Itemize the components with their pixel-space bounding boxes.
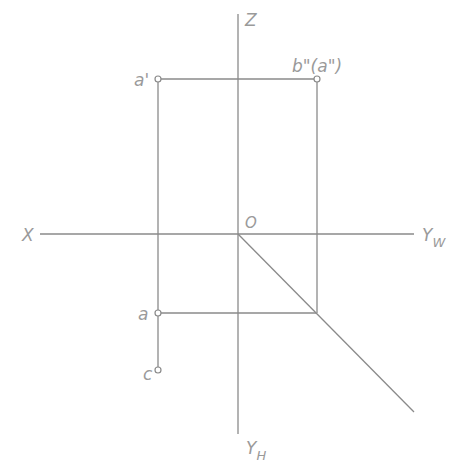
a-label: a	[138, 304, 148, 324]
point-a	[155, 310, 161, 316]
x-axis-label: X	[21, 225, 34, 245]
yw-axis-label: YW	[422, 225, 446, 250]
c-label: c	[143, 364, 153, 384]
origin-label: O	[245, 214, 257, 232]
point-c	[155, 367, 161, 373]
a-prime-label: a'	[134, 70, 149, 90]
yw-subscript: W	[432, 235, 446, 250]
yh-subscript: H	[256, 448, 266, 463]
point-a-prime	[155, 76, 161, 82]
point-b-dprime	[314, 76, 320, 82]
yh-axis-label: YH	[246, 438, 266, 463]
b-dprime-label: b"(a")	[292, 56, 342, 76]
diagonal-45-line	[238, 234, 414, 412]
z-axis-label: Z	[244, 10, 257, 30]
projection-diagram: Z X O YW YH a' b"(a") a c	[0, 0, 453, 472]
